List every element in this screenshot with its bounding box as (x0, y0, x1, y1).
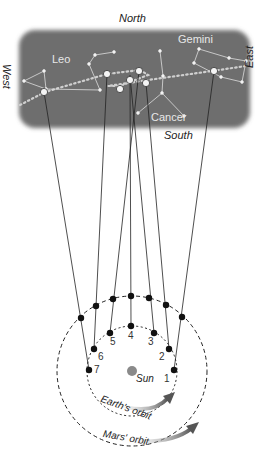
earth-pos-1: 1 (164, 373, 170, 384)
earth-pos-2: 2 (159, 351, 165, 362)
label-south: South (164, 129, 193, 141)
earth-pos-4: 4 (128, 330, 134, 341)
label-sun: Sun (136, 373, 154, 384)
label-leo: Leo (52, 53, 70, 65)
label-east: East (243, 46, 255, 68)
mars-retrograde-diagram: North South East West Leo Gemini Cancer … (0, 0, 272, 456)
label-gemini: Gemini (178, 33, 213, 45)
label-cancer: Cancer (151, 111, 186, 123)
mars-positions (78, 293, 185, 321)
label-north: North (119, 12, 146, 24)
earth-pos-3: 3 (148, 336, 154, 347)
earth-pos-5: 5 (110, 336, 116, 347)
earth-pos-7: 7 (94, 364, 100, 375)
earth-pos-6: 6 (98, 351, 104, 362)
label-west: West (1, 64, 13, 89)
diagram-canvas (0, 0, 272, 456)
